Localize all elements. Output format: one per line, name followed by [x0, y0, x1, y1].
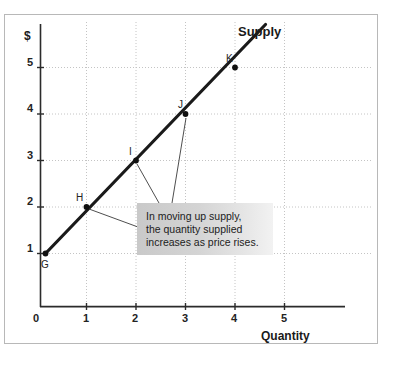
plot-area: $ 5 4 3 2 1 0 1 2 3 4 5 Quantity Supply …	[0, 0, 395, 365]
y-tick-label-1: 1	[27, 243, 33, 254]
y-tick-label-2: 2	[27, 196, 33, 207]
point-k-marker	[232, 65, 238, 71]
callout-line-2: the quantity supplied	[146, 223, 265, 236]
leader-from-j	[172, 118, 186, 203]
callout-line-3: increases as price rises.	[146, 236, 265, 249]
chart-canvas	[0, 0, 395, 365]
x-tick-label-1: 1	[83, 313, 89, 324]
y-tick-label-4: 4	[27, 103, 33, 114]
supply-curve-figure: $ 5 4 3 2 1 0 1 2 3 4 5 Quantity Supply …	[0, 0, 395, 365]
point-i-marker	[133, 158, 139, 164]
x-axis-title: Quantity	[261, 330, 310, 342]
x-tick-label-4: 4	[231, 313, 237, 324]
x-tick-label-2: 2	[132, 313, 138, 324]
point-label-h: H	[76, 193, 83, 203]
point-label-k: K	[226, 54, 233, 64]
gridlines-vertical	[87, 22, 285, 306]
point-label-i: I	[129, 147, 132, 157]
axis-lines	[40, 24, 345, 307]
x-tick-label-0: 0	[33, 313, 39, 324]
x-tick-label-3: 3	[182, 313, 188, 324]
point-label-g: G	[41, 260, 49, 270]
clipped-top-text	[105, 0, 108, 10]
point-g-marker	[43, 251, 49, 257]
y-axis-title: $	[24, 30, 31, 42]
point-h-marker	[84, 204, 90, 210]
leader-from-i	[137, 164, 159, 203]
point-j-marker	[183, 111, 189, 117]
callout-line-1: In moving up supply,	[146, 210, 265, 223]
point-label-j: J	[178, 100, 183, 110]
x-tick-label-5: 5	[281, 313, 287, 324]
y-tick-label-3: 3	[27, 150, 33, 161]
supply-callout-box: In moving up supply, the quantity suppli…	[137, 203, 273, 255]
y-tick-label-5: 5	[27, 57, 33, 68]
leader-from-h	[89, 209, 138, 227]
series-label-supply: Supply	[238, 25, 281, 38]
